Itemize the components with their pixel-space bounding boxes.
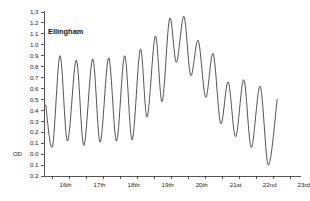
y-tick-label: 1.1: [30, 30, 39, 37]
tide-series-line: [46, 16, 277, 165]
x-tick-label: 19th: [162, 181, 175, 188]
series-group: [46, 16, 277, 165]
x-tick-label: 18th: [128, 181, 141, 188]
y-tick-label: 0.9: [30, 52, 39, 59]
y-tick-label: 1.3: [30, 8, 39, 15]
y-tick-label: 0.1: [30, 139, 39, 146]
y-tick-label: 0.7: [30, 74, 39, 81]
series-title: Ellingham: [48, 27, 84, 36]
y-tick-label: 0.0: [30, 150, 39, 157]
x-tick-label: 21st: [230, 181, 242, 188]
y-tick-label: 0.6: [30, 85, 39, 92]
y-tick-label: 0.4: [30, 107, 39, 114]
y-tick-label: 1.0: [30, 41, 39, 48]
y-axis: 1.31.21.11.00.90.80.70.60.50.40.30.20.10…: [13, 8, 44, 179]
y-tick-label: 0.3: [30, 118, 39, 125]
x-axis: 16th17th18th19th20th21st22nd23rd: [44, 176, 310, 188]
y-tick-label: 0.2: [30, 128, 39, 135]
y-tick-label: 0.5: [30, 96, 39, 103]
ordnance-datum-label: OD: [13, 150, 23, 157]
chart-canvas: 1.31.21.11.00.90.80.70.60.50.40.30.20.10…: [0, 0, 310, 201]
y-tick-label: 1.2: [30, 19, 39, 26]
x-tick-label: 22nd: [263, 181, 277, 188]
y-tick-label: 0.1: [30, 161, 39, 168]
y-tick-label: 0.8: [30, 63, 39, 70]
x-tick-label: 20th: [196, 181, 209, 188]
y-tick-label: 0.2: [30, 172, 39, 179]
x-tick-label: 17th: [94, 181, 107, 188]
x-tick-label: 23rd: [298, 181, 310, 188]
x-tick-label: 16th: [59, 181, 72, 188]
tide-chart: 1.31.21.11.00.90.80.70.60.50.40.30.20.10…: [0, 0, 310, 201]
